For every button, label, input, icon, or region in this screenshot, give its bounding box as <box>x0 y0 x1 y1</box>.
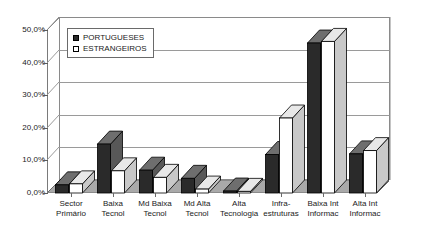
x-tick-mark <box>281 193 282 197</box>
x-axis-label-8: Alta IntInformac <box>337 199 393 219</box>
x-axis-label-line: Informac <box>337 209 393 219</box>
x-tick-mark <box>365 193 366 197</box>
x-tick-mark <box>155 193 156 197</box>
legend-swatch-open-icon <box>73 46 79 52</box>
legend-item-estrangeiros: ESTRANGEIROS <box>73 43 147 54</box>
bar-7-estrangeiros <box>322 28 347 193</box>
legend-item-portugueses: PORTUGUESES <box>73 32 147 43</box>
legend-swatch-filled-icon <box>73 35 79 41</box>
x-tick-mark <box>239 193 240 197</box>
x-tick-mark <box>71 193 72 197</box>
chart-container: 50,0% 40,0% 30,0% 20,0% 10,0% 0,0% PORTU… <box>0 0 432 230</box>
bar-6-estrangeiros <box>280 105 305 193</box>
legend-label-estrangeiros: ESTRANGEIROS <box>83 44 147 53</box>
legend-label-portugueses: PORTUGUESES <box>83 33 144 42</box>
x-axis-labels: SectorPrimárioBaixaTecnolMd BaixaTecnolM… <box>0 193 432 230</box>
x-tick-mark <box>323 193 324 197</box>
chart-legend: PORTUGUESES ESTRANGEIROS <box>67 28 154 58</box>
x-axis-label-line: Alta Int <box>337 199 393 209</box>
x-tick-mark <box>197 193 198 197</box>
x-tick-mark <box>113 193 114 197</box>
